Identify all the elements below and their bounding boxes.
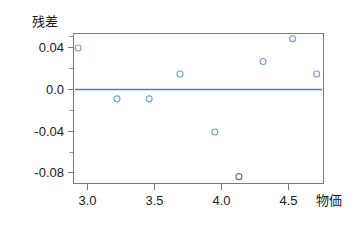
- y-axis-minor-ticks: [69, 37, 73, 153]
- data-point: [236, 174, 242, 180]
- data-point: [114, 96, 120, 102]
- x-tick-label-3: 4.5: [279, 193, 297, 208]
- y-tick-label-2: -0.04: [34, 124, 64, 139]
- x-tick-label-2: 4.0: [212, 193, 230, 208]
- y-tick-label-0: 0.04: [39, 40, 64, 55]
- residual-plot-screenshot: 0.04 0.0 -0.04 -0.08 3.0 3.5 4.0 4.5 残差 …: [0, 0, 355, 231]
- data-point: [290, 36, 296, 42]
- x-tick-label-0: 3.0: [78, 193, 96, 208]
- x-axis-major-ticks: [88, 184, 289, 190]
- data-point: [314, 71, 320, 77]
- data-point: [177, 71, 183, 77]
- data-point: [75, 45, 81, 51]
- plot-frame: [74, 34, 324, 184]
- data-point: [212, 129, 218, 135]
- y-tick-label-3: -0.08: [34, 165, 64, 180]
- residual-scatter-chart: 0.04 0.0 -0.04 -0.08 3.0 3.5 4.0 4.5 残差 …: [0, 0, 355, 231]
- x-tick-label-1: 3.5: [145, 193, 163, 208]
- y-tick-label-1: 0.0: [46, 82, 64, 97]
- y-axis-title: 残差: [32, 14, 58, 29]
- data-point: [146, 96, 152, 102]
- data-points-layer: [75, 36, 320, 180]
- x-axis-title: 物価: [316, 193, 342, 208]
- data-point: [260, 58, 266, 64]
